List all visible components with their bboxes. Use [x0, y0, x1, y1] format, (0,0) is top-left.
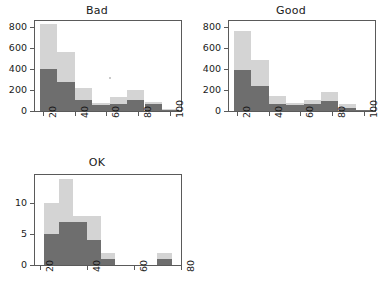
x-axis-label: 60: [110, 106, 121, 118]
histogram-bar: [234, 70, 251, 111]
y-axis-tick: [224, 48, 228, 49]
plot-area-bad: [34, 20, 182, 112]
x-axis-tick: [43, 112, 44, 116]
y-axis-label: 5: [0, 228, 27, 239]
y-axis-tick: [30, 90, 34, 91]
histogram-bar: [57, 82, 74, 111]
panel-title-ok: OK: [0, 156, 194, 169]
y-axis-label: 200: [0, 84, 27, 95]
bar-group-good: [229, 21, 375, 111]
x-axis-label: 80: [142, 106, 153, 118]
x-axis-label: 20: [241, 106, 252, 118]
histogram-bar: [157, 259, 171, 265]
panel-title-bad: Bad: [0, 4, 194, 17]
y-axis-tick: [30, 203, 34, 204]
y-axis-label: 0: [194, 105, 221, 116]
panel-good: Good 020040060080020406080100: [194, 0, 388, 152]
x-axis-tick: [75, 112, 76, 116]
x-axis-label: 40: [91, 260, 102, 272]
x-axis-label: 60: [138, 260, 149, 272]
figure-grid: Bad 020040060080020406080100 Good 020040…: [0, 0, 388, 304]
panel-bad: Bad 020040060080020406080100: [0, 0, 194, 152]
x-axis-tick: [269, 112, 270, 116]
x-axis-tick: [87, 266, 88, 270]
x-axis-tick: [138, 112, 139, 116]
panel-title-good: Good: [194, 4, 388, 17]
panel-empty: [194, 152, 388, 304]
y-axis-label: 0: [0, 259, 27, 270]
y-axis-tick: [224, 27, 228, 28]
y-axis-tick: [30, 111, 34, 112]
histogram-bar: [73, 222, 87, 265]
panel-ok: OK 051020406080: [0, 152, 194, 304]
x-axis-label: 80: [336, 106, 347, 118]
x-axis-tick: [332, 112, 333, 116]
stray-dot-marker: [109, 77, 111, 79]
x-axis-tick: [170, 112, 171, 116]
y-axis-tick: [224, 111, 228, 112]
plot-area-good: [228, 20, 376, 112]
histogram-bar: [286, 105, 303, 111]
x-axis-label: 40: [79, 106, 90, 118]
y-axis-label: 10: [0, 197, 27, 208]
y-axis-tick: [30, 69, 34, 70]
histogram-bar: [59, 222, 73, 265]
x-axis-label: 40: [273, 106, 284, 118]
bar-group-ok: [35, 175, 181, 265]
y-axis-label: 400: [0, 63, 27, 74]
y-axis-label: 200: [194, 84, 221, 95]
x-axis-tick: [106, 112, 107, 116]
x-axis-label: 20: [47, 106, 58, 118]
y-axis-tick: [224, 69, 228, 70]
histogram-bar: [92, 105, 109, 111]
histogram-bar: [101, 259, 115, 265]
bar-group-bad: [35, 21, 181, 111]
y-axis-tick: [30, 265, 34, 266]
x-axis-tick: [300, 112, 301, 116]
y-axis-label: 0: [0, 105, 27, 116]
plot-area-ok: [34, 174, 182, 266]
x-axis-tick: [40, 266, 41, 270]
y-axis-tick: [30, 27, 34, 28]
histogram-bar: [40, 69, 57, 111]
y-axis-tick: [30, 48, 34, 49]
x-axis-tick: [364, 112, 365, 116]
x-axis-tick: [181, 266, 182, 270]
y-axis-label: 800: [194, 21, 221, 32]
y-axis-tick: [224, 90, 228, 91]
y-axis-label: 600: [194, 42, 221, 53]
histogram-bar: [251, 86, 268, 111]
x-axis-label: 20: [44, 260, 55, 272]
y-axis-label: 600: [0, 42, 27, 53]
y-axis-tick: [30, 234, 34, 235]
x-axis-label: 100: [368, 100, 379, 118]
x-axis-tick: [134, 266, 135, 270]
x-axis-label: 60: [304, 106, 315, 118]
y-axis-label: 400: [194, 63, 221, 74]
x-axis-tick: [237, 112, 238, 116]
x-axis-label: 100: [174, 100, 185, 118]
y-axis-label: 800: [0, 21, 27, 32]
